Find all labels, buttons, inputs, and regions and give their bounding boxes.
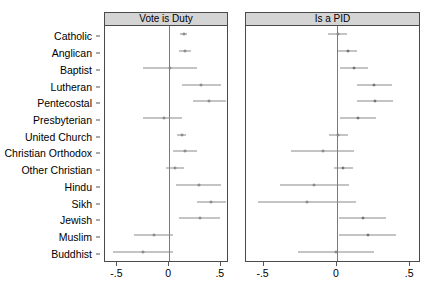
panel-vote-is-duty: Vote is Duty <box>104 12 228 262</box>
x-axis-tick <box>168 262 169 266</box>
point-estimate-marker <box>152 233 155 236</box>
category-label: Baptist <box>60 65 92 76</box>
x-axis-tick-label: .5 <box>215 267 224 279</box>
point-estimate-marker <box>374 100 377 103</box>
category-axis-labels: CatholicAnglicanBaptistLutheranPentecost… <box>0 28 96 262</box>
x-axis-tick <box>336 262 337 266</box>
x-axis-tick <box>409 262 410 266</box>
plot-area <box>104 26 228 262</box>
x-axis-tick-label: .5 <box>405 267 414 279</box>
point-estimate-marker <box>336 33 339 36</box>
category-tick <box>96 53 100 54</box>
panel-title: Vote is Duty <box>104 12 228 26</box>
coefficient-plot-figure: CatholicAnglicanBaptistLutheranPentecost… <box>0 0 432 308</box>
category-label: Sikh <box>72 198 92 209</box>
category-label: Hindu <box>65 182 92 193</box>
panel-title: Is a PID <box>245 12 420 26</box>
x-axis-tick-label: -.5 <box>256 267 268 279</box>
category-label: Pentecostal <box>37 98 92 109</box>
x-axis-tick <box>220 262 221 266</box>
category-tick <box>96 220 100 221</box>
category-tick <box>96 153 100 154</box>
category-tick <box>96 69 100 70</box>
category-label: Buddhist <box>51 248 92 259</box>
point-estimate-marker <box>197 183 200 186</box>
point-estimate-marker <box>346 50 349 53</box>
point-estimate-marker <box>337 133 340 136</box>
point-estimate-marker <box>210 200 213 203</box>
category-tick <box>96 203 100 204</box>
category-label: Presbyterian <box>33 115 92 126</box>
reference-line-zero <box>169 26 170 261</box>
category-label: United Church <box>25 131 92 142</box>
point-estimate-marker <box>168 66 171 69</box>
category-tick <box>96 236 100 237</box>
point-estimate-marker <box>321 150 324 153</box>
category-tick <box>96 170 100 171</box>
point-estimate-marker <box>342 167 345 170</box>
point-estimate-marker <box>305 200 308 203</box>
x-axis-panel-is-a-pid: -.50.5 <box>245 262 420 282</box>
panel-is-a-pid: Is a PID <box>245 12 420 262</box>
point-estimate-marker <box>361 217 364 220</box>
point-estimate-marker <box>335 250 338 253</box>
x-axis-tick <box>116 262 117 266</box>
category-label: Muslim <box>59 232 92 243</box>
category-label: Catholic <box>54 31 92 42</box>
x-axis-tick-label: 0 <box>333 267 339 279</box>
category-tick <box>96 186 100 187</box>
point-estimate-marker <box>184 50 187 53</box>
x-axis-tick-label: -.5 <box>110 267 122 279</box>
plot-area <box>245 26 420 262</box>
category-label: Lutheran <box>51 81 92 92</box>
x-axis-tick-label: 0 <box>165 267 171 279</box>
category-label: Anglican <box>52 48 92 59</box>
point-estimate-marker <box>182 33 185 36</box>
point-estimate-marker <box>180 133 183 136</box>
category-tick <box>96 86 100 87</box>
point-estimate-marker <box>373 83 376 86</box>
category-tick <box>96 253 100 254</box>
point-estimate-marker <box>313 183 316 186</box>
x-axis-tick <box>263 262 264 266</box>
category-tick <box>96 103 100 104</box>
category-tick <box>96 36 100 37</box>
point-estimate-marker <box>208 100 211 103</box>
point-estimate-marker <box>200 83 203 86</box>
point-estimate-marker <box>173 167 176 170</box>
point-estimate-marker <box>357 116 360 119</box>
point-estimate-marker <box>163 116 166 119</box>
point-estimate-marker <box>352 66 355 69</box>
point-estimate-marker <box>198 217 201 220</box>
category-tick <box>96 119 100 120</box>
x-axis-panel-vote-is-duty: -.50.5 <box>104 262 228 282</box>
category-tick <box>96 136 100 137</box>
category-label: Other Christian <box>21 165 92 176</box>
category-label: Christian Orthodox <box>4 148 92 159</box>
category-label: Jewish <box>60 215 92 226</box>
reference-line-zero <box>337 26 338 261</box>
point-estimate-marker <box>141 250 144 253</box>
point-estimate-marker <box>184 150 187 153</box>
point-estimate-marker <box>366 233 369 236</box>
